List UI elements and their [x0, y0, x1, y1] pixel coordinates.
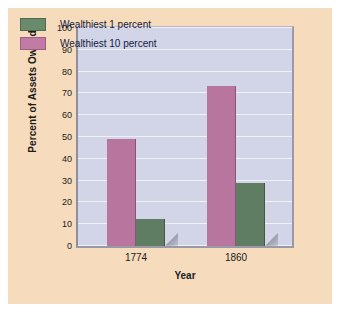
y-axis-tick: 60	[48, 110, 72, 120]
y-axis-tick: 0	[48, 241, 72, 251]
gridline	[78, 114, 292, 115]
y-axis-tick: 80	[48, 67, 72, 77]
legend-item-wealthiest-10-percent: Wealthiest 10 percent	[20, 37, 157, 50]
y-axis-tick: 30	[48, 176, 72, 186]
gridline	[78, 92, 292, 93]
gridline	[78, 71, 292, 72]
chart-legend: Wealthiest 1 percent Wealthiest 10 perce…	[20, 18, 157, 50]
bar-shadow	[165, 233, 178, 246]
legend-item-wealthiest-1-percent: Wealthiest 1 percent	[20, 18, 157, 31]
bar-chart: Percent of Assets Owned 1009080706050403…	[8, 8, 332, 304]
y-axis-tick: 70	[48, 88, 72, 98]
bar	[136, 219, 165, 246]
x-axis-tick-labels: 17741860	[76, 252, 294, 266]
y-axis-tick: 20	[48, 197, 72, 207]
legend-label-green: Wealthiest 1 percent	[60, 19, 151, 30]
y-axis-tick: 10	[48, 219, 72, 229]
bar-shadow	[265, 233, 278, 246]
bar	[236, 183, 265, 246]
plot-area	[76, 26, 294, 248]
x-axis-tick: 1774	[106, 252, 166, 263]
legend-swatch-pink	[20, 37, 46, 50]
screenshot-root: Percent of Assets Owned 1009080706050403…	[0, 0, 340, 315]
bar	[107, 139, 136, 246]
bar	[207, 86, 236, 246]
legend-swatch-green	[20, 18, 46, 31]
legend-label-pink: Wealthiest 10 percent	[60, 38, 157, 49]
gridline	[78, 136, 292, 137]
x-axis-tick: 1860	[206, 252, 266, 263]
figure-panel: Percent of Assets Owned 1009080706050403…	[8, 8, 332, 304]
y-axis-tick: 40	[48, 154, 72, 164]
y-axis-tick-labels: 1009080706050403020100	[46, 26, 72, 248]
x-axis-title: Year	[76, 270, 294, 281]
y-axis-tick: 50	[48, 132, 72, 142]
plot-inner	[78, 28, 292, 246]
